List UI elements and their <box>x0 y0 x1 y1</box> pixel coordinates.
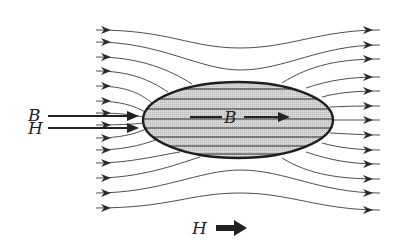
outside-h-label: H <box>27 118 44 138</box>
field-line-right <box>322 143 380 150</box>
arrowhead-right <box>363 189 373 197</box>
field-line-right <box>306 152 380 164</box>
field-line-right <box>306 77 380 88</box>
field-line-right <box>322 91 380 97</box>
bottom-h-arrow <box>216 220 247 236</box>
arrowhead-right <box>363 41 373 49</box>
ellipsoid-body: B <box>143 82 333 158</box>
bottom-h-label: H <box>191 218 208 238</box>
field-line-left <box>96 57 192 84</box>
field-diagram: B B H H <box>0 0 405 250</box>
field-line-left <box>96 152 180 163</box>
field-line <box>96 30 380 48</box>
field-line <box>96 170 380 193</box>
field-line-left <box>96 157 200 178</box>
field-line-right <box>330 133 380 135</box>
external-labels: B H <box>27 105 137 138</box>
field-line <box>96 42 380 70</box>
field-line-left <box>96 71 168 92</box>
inner-b-label: B <box>223 107 237 127</box>
field-line <box>96 193 380 210</box>
applied-field-indicator: H <box>191 218 247 238</box>
